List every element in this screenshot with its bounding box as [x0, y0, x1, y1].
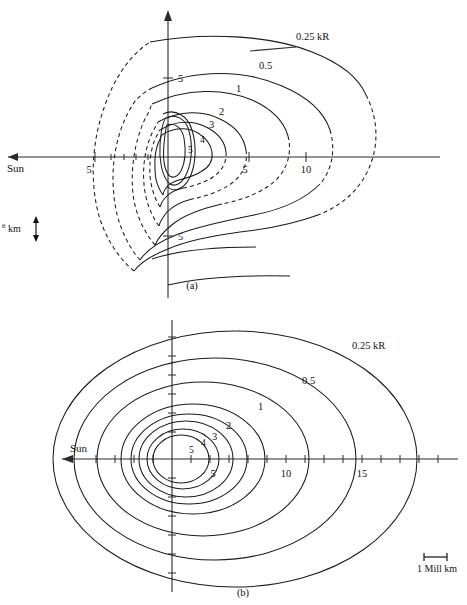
panel-label-a: (a) — [186, 280, 198, 292]
contour-label-1-b: 1 — [258, 401, 263, 412]
contour-label-5-a: 5 — [188, 145, 193, 155]
panel-b: 5 10 15 0.25 kR 0.5 1 2 3 4 5 Sun 1 Mill… — [0, 300, 467, 605]
contour-label-5-b: 5 — [189, 445, 194, 455]
panel-label-b: (b) — [237, 587, 250, 599]
contour-label-leader-a — [250, 47, 296, 51]
panel-b-plot: 5 10 15 0.25 kR 0.5 1 2 3 4 5 Sun 1 Mill… — [0, 300, 467, 605]
panel-a: 5 5 10 5 5 0.25 kR 0.5 1 2 3 4 5 Sun 6 k… — [0, 0, 467, 300]
contour-5-a-inner — [160, 116, 192, 185]
panel-b-y-axis — [168, 320, 176, 592]
scale-label-a: km — [8, 223, 21, 234]
sun-label-b: Sun — [70, 442, 88, 454]
scale-label-b: 1 Mill km — [417, 563, 457, 574]
contour-4-a-left — [155, 135, 163, 195]
contour-label-3-b: 3 — [212, 431, 217, 442]
contour-label-0p5-b: 0.5 — [302, 375, 315, 386]
scale-exponent-a: 6 — [2, 222, 6, 230]
panel-b-xtick-5: 5 — [210, 468, 215, 479]
scale-bar-b: 1 Mill km — [417, 553, 457, 574]
panel-a-plot: 5 5 10 5 5 0.25 kR 0.5 1 2 3 4 5 Sun 6 k… — [0, 0, 467, 300]
panel-b-xtick-10: 10 — [281, 468, 292, 479]
panel-a-xtick-5: 5 — [242, 164, 247, 175]
contour-label-4-a: 4 — [200, 135, 205, 145]
panel-b-xtick-15: 15 — [357, 468, 368, 479]
contour-1-a-dashed-sunward — [132, 104, 155, 245]
contour-0p5-a-dashed-sunward — [113, 88, 152, 260]
contour-label-0p25-b: 0.25 kR — [352, 340, 385, 351]
contour-0p25-a-solid-bottom-right — [240, 215, 318, 232]
sun-arrow-head-b — [62, 455, 73, 463]
panel-a-contours — [93, 36, 376, 285]
panel-a-x-axis — [8, 152, 440, 162]
figure-contour-maps: 5 5 10 5 5 0.25 kR 0.5 1 2 3 4 5 Sun 6 k… — [0, 0, 467, 605]
sun-arrow-head-a — [8, 153, 18, 161]
contour-label-0p5-a: 0.5 — [259, 60, 272, 71]
panel-a-ytick-5: 5 — [178, 73, 183, 84]
contour-label-2-a: 2 — [219, 106, 224, 117]
contour-label-4-b: 4 — [201, 438, 206, 448]
contour-label-2-b: 2 — [226, 420, 231, 431]
y-axis-arrow-head-a — [164, 10, 172, 21]
contour-1-a-dashed-right — [222, 136, 290, 204]
sun-label-a: Sun — [7, 162, 25, 174]
panel-a-ytick-neg5: 5 — [178, 231, 183, 242]
contour-3-a-solid-top — [160, 122, 226, 152]
contour-4-a-right — [179, 152, 212, 180]
contour-0p25-a-dashed-tail — [318, 95, 376, 215]
contour-label-0p25-a: 0.25 kR — [296, 31, 329, 42]
contour-2-a-dashed-sunward — [144, 122, 159, 226]
contour-label-1-a: 1 — [236, 83, 241, 94]
contour-label-3-a: 3 — [209, 119, 214, 130]
panel-a-xtick-10: 10 — [301, 164, 312, 175]
panel-a-xtick-neg5: 5 — [86, 164, 91, 175]
contour-3-a-solid-bottom — [160, 188, 183, 207]
contour-0p25-a-solid-top — [150, 36, 366, 95]
scale-bar-a: 6 km — [2, 216, 39, 242]
